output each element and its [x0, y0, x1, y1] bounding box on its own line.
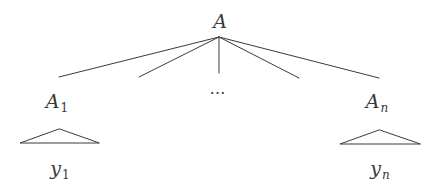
a1-subscript: 1: [61, 101, 69, 115]
yield-yn: yn: [370, 159, 389, 181]
tree-diagram: A … A1 An y1 yn: [0, 0, 438, 189]
child-node-a1: A1: [46, 92, 68, 114]
a1-label-text: A: [46, 90, 60, 112]
yn-subscript: n: [382, 168, 390, 182]
subtree-triangle-a1: [20, 129, 99, 143]
yield-y1: y1: [50, 159, 69, 181]
an-label-text: A: [366, 90, 380, 112]
edge-root-to-a1: [59, 37, 219, 77]
edge-root-to-an: [219, 37, 379, 78]
root-label-text: A: [213, 10, 227, 32]
subtree-triangle-an: [340, 130, 420, 144]
root-node-label: A: [213, 12, 227, 31]
ellipsis: …: [210, 79, 229, 98]
y1-subscript: 1: [62, 168, 70, 182]
edge-root-to-child-4: [219, 37, 299, 78]
child-node-an: An: [366, 92, 388, 114]
yn-label-text: y: [370, 157, 381, 179]
y1-label-text: y: [50, 157, 61, 179]
an-subscript: n: [381, 101, 389, 115]
edge-root-to-child-2: [139, 37, 219, 77]
